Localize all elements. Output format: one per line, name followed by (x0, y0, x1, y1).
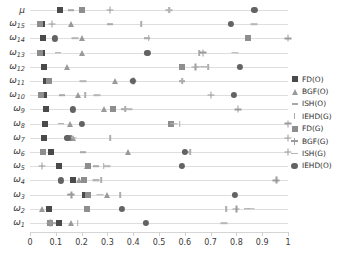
data-point (68, 21, 74, 27)
y-axis-label-omega-4: ω4 (13, 174, 25, 187)
row-gridline (30, 166, 288, 167)
data-point (228, 21, 234, 27)
chart-legend: FD(O)BGF(O)ISH(O)IEHD(G)FD(G)BGF(G)ISH(G… (290, 73, 332, 172)
data-point (207, 64, 209, 70)
y-axis-label-omega-6: ω6 (13, 146, 25, 159)
data-point (79, 35, 85, 41)
data-point (79, 7, 85, 13)
data-point (247, 208, 254, 210)
data-point (148, 35, 150, 41)
data-point (68, 9, 74, 11)
y-axis-label-omega-7: ω7 (13, 131, 25, 144)
data-point (72, 38, 79, 40)
x-tick-label: 0.6 (178, 238, 191, 247)
data-point (225, 206, 227, 212)
data-point (101, 106, 107, 112)
legend-marker-icon (290, 99, 299, 108)
x-tick-mark (133, 232, 134, 236)
data-point (85, 163, 91, 169)
data-point (220, 222, 227, 224)
data-point (46, 206, 52, 212)
plot-area: μω15ω14ω13ω12ω11ω10ω9ω8ω7ω6ω5ω4ω3ω2ω1 (30, 4, 288, 226)
y-axis-label-omega-14: ω14 (9, 32, 25, 45)
y-axis-label-omega-15: ω15 (9, 18, 25, 31)
y-axis-label-omega-5: ω5 (13, 160, 25, 173)
data-point (58, 123, 64, 125)
x-tick-label: 0.1 (49, 238, 62, 247)
legend-item-label: FD(O) (302, 75, 324, 84)
data-point (109, 135, 111, 141)
data-point (181, 78, 183, 84)
data-point (94, 94, 101, 96)
data-point (85, 192, 91, 198)
data-point (56, 220, 62, 226)
x-tick-mark (107, 232, 108, 236)
x-tick-label: 0.9 (256, 238, 269, 247)
data-point (55, 52, 61, 54)
x-tick-label: 0.7 (204, 238, 217, 247)
legend-item-fdg[interactable]: FD(G) (290, 123, 332, 135)
data-point (166, 9, 173, 11)
legend-item-bgfo[interactable]: BGF(O) (290, 85, 332, 97)
data-point (77, 220, 79, 226)
data-point (92, 180, 99, 182)
data-point (84, 206, 90, 212)
legend-item-label: ISH(G) (302, 149, 326, 158)
legend-marker-icon (290, 124, 299, 133)
legend-item-ishg[interactable]: ISH(G) (290, 147, 332, 159)
legend-marker-icon (290, 161, 299, 170)
data-point (69, 106, 75, 112)
y-axis-label-mu: μ (19, 5, 25, 15)
data-point (233, 205, 240, 212)
row-gridline (30, 152, 288, 153)
data-point (120, 192, 122, 198)
data-point (41, 64, 47, 70)
x-tick-mark (159, 232, 160, 236)
data-point (58, 177, 64, 183)
data-point (75, 92, 81, 98)
y-axis-label-omega-8: ω8 (13, 117, 25, 130)
x-tick-label: 0.4 (127, 238, 140, 247)
legend-item-label: IEHD(G) (302, 112, 332, 121)
y-axis-label-omega-10: ω10 (9, 89, 25, 102)
data-point (51, 35, 57, 41)
data-point (68, 191, 75, 198)
data-point (38, 163, 45, 170)
row-gridline (30, 95, 288, 96)
legend-item-iehdg[interactable]: IEHD(G) (290, 110, 332, 122)
data-point (79, 50, 85, 56)
x-tick-label: 0.2 (75, 238, 88, 247)
row-gridline (30, 81, 288, 82)
data-point (40, 35, 46, 41)
data-point (64, 64, 70, 70)
data-point (70, 177, 76, 183)
legend-item-isho[interactable]: ISH(O) (290, 98, 332, 110)
data-point (106, 7, 113, 14)
x-tick-mark (262, 232, 263, 236)
data-point (79, 80, 86, 82)
x-tick-label: 0 (27, 238, 32, 247)
data-point (47, 220, 54, 227)
data-point (96, 194, 103, 196)
data-point (110, 106, 116, 112)
data-point (41, 135, 47, 141)
x-tick-label: 0.8 (230, 238, 243, 247)
data-point (107, 23, 113, 25)
legend-marker-icon (290, 87, 299, 96)
legend-item-iehdo[interactable]: IEHD(O) (290, 160, 332, 172)
data-point (179, 163, 185, 169)
data-point (37, 21, 43, 27)
data-point (231, 92, 237, 98)
x-tick-mark (30, 232, 31, 236)
y-axis-label-omega-9: ω9 (13, 103, 25, 116)
legend-marker-icon (290, 75, 299, 84)
legend-marker-icon (290, 112, 299, 121)
y-axis-label-omega-1: ω1 (13, 217, 25, 230)
legend-item-label: FD(G) (302, 124, 323, 133)
legend-item-fdo[interactable]: FD(O) (290, 73, 332, 85)
data-point (38, 92, 44, 98)
y-axis-label-omega-3: ω3 (13, 188, 25, 201)
data-point (285, 35, 292, 42)
data-point (81, 177, 87, 183)
legend-item-bgfg[interactable]: BGF(G) (290, 135, 332, 147)
